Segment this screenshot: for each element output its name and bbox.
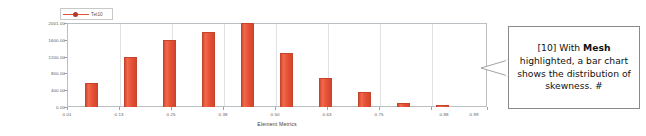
bar-1[interactable] <box>124 57 137 107</box>
bar-7[interactable] <box>358 92 371 108</box>
bar-chart-figure: Tet10 Number of Elements 2001.00 1600.00… <box>0 0 500 136</box>
annotation-text: [10] With Mesh highlighted, a bar chart … <box>516 42 632 92</box>
x-tick-label: 0.38 <box>219 112 228 117</box>
x-tick-mark <box>431 107 432 110</box>
x-tick-mark <box>67 107 68 110</box>
x-tick-label: 0.25 <box>167 112 176 117</box>
x-tick-label: 0.13 <box>115 112 124 117</box>
chart-legend[interactable]: Tet10 <box>60 8 113 20</box>
x-tick-label: 0.01 <box>63 112 72 117</box>
annotation-prefix: [10] With <box>538 42 584 53</box>
bar-3[interactable] <box>202 32 215 108</box>
annotation-suffix: highlighted, a bar chart shows the distr… <box>517 55 631 91</box>
x-tick-label: 0.50 <box>271 112 280 117</box>
annotation-bold-term: Mesh <box>583 42 610 53</box>
legend-series-marker-icon <box>63 11 89 17</box>
bar-4[interactable] <box>241 23 254 107</box>
legend-series-label: Tet10 <box>91 12 103 17</box>
screenshot-root: Tet10 Number of Elements 2001.00 1600.00… <box>0 0 646 136</box>
bar-series-tet10 <box>67 23 487 107</box>
x-tick-mark <box>379 107 380 110</box>
bar-2[interactable] <box>163 40 176 107</box>
y-tick-label: 1600.00 <box>48 38 65 43</box>
x-tick-mark <box>275 107 276 110</box>
x-axis-title: Element Metrics <box>257 121 296 127</box>
bar-6[interactable] <box>319 78 332 107</box>
annotation-callout: [10] With Mesh highlighted, a bar chart … <box>508 26 640 109</box>
x-tick-label: 0.63 <box>323 112 332 117</box>
y-tick-label: 2001.00 <box>48 21 65 26</box>
x-tick-label: 0.88 <box>440 112 449 117</box>
y-tick-label: 400.00 <box>51 88 65 93</box>
x-tick-mark <box>487 107 488 110</box>
bar-0[interactable] <box>85 83 98 107</box>
x-tick-mark <box>119 107 120 110</box>
x-tick-mark <box>223 107 224 110</box>
y-tick-label: 1200.00 <box>48 55 65 60</box>
y-tick-label: 800.00 <box>51 71 65 76</box>
x-tick-label: 0.99 <box>470 112 479 117</box>
x-tick-label: 0.75 <box>375 112 384 117</box>
y-axis-tick-labels: 2001.00 1600.00 1200.00 800.00 400.00 0.… <box>40 0 65 136</box>
bar-9[interactable] <box>436 105 449 107</box>
bar-5[interactable] <box>280 53 293 107</box>
callout-tail-icon <box>481 58 509 78</box>
bar-8[interactable] <box>397 103 410 107</box>
x-tick-mark <box>171 107 172 110</box>
x-tick-mark <box>327 107 328 110</box>
